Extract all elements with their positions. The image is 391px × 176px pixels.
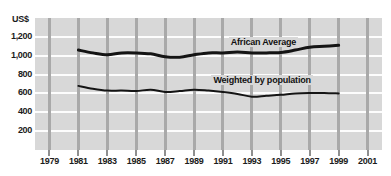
y-axis-tick-label: 1,000 [0, 50, 32, 60]
y-axis-tick-label: 1,200 [0, 31, 32, 41]
chart-figure: US$ 2004006008001,0001,200 African Avera… [0, 0, 391, 176]
y-axis-tick-labels: 2004006008001,0001,200 [0, 0, 32, 176]
y-axis-tick-label: 400 [0, 106, 32, 116]
y-axis-tick-label: 600 [0, 87, 32, 97]
x-axis-tick-label: 2001 [348, 156, 388, 166]
series-line-2 [78, 86, 338, 97]
series-line-1 [78, 45, 338, 57]
series-label-2: Weighted by population [211, 75, 312, 85]
y-axis-tick-label: 800 [0, 69, 32, 79]
series-layer [35, 18, 382, 150]
series-label-1: African Average [229, 37, 298, 47]
y-axis-tick-label: 200 [0, 125, 32, 135]
x-axis-tick-labels: 1979198119831985198719891991199319951997… [0, 156, 391, 174]
